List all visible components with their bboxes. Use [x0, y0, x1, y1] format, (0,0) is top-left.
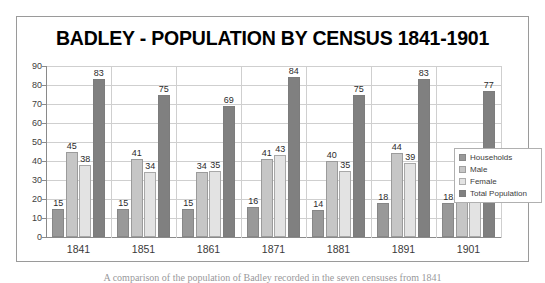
x-axis-tick-label: 1891: [392, 243, 415, 255]
bar-value-label: 41: [132, 148, 142, 158]
bar-value-label: 16: [248, 196, 258, 206]
bar-female-1851[interactable]: [144, 172, 156, 237]
chart-frame: BADLEY - POPULATION BY CENSUS 1841-1901 …: [16, 16, 529, 262]
bar-value-label: 15: [183, 198, 193, 208]
bar-total-population-1861[interactable]: [223, 106, 235, 237]
legend-label: Female: [470, 177, 497, 187]
bar-value-label: 77: [484, 80, 494, 90]
bar-value-label: 84: [289, 66, 299, 76]
figure-caption: A comparison of the population of Badley…: [0, 272, 545, 283]
y-axis-tick-label: 60: [32, 118, 42, 128]
y-axis-tick-label: 30: [32, 175, 42, 185]
legend-label: Households: [470, 153, 512, 163]
y-axis-tick-label: 40: [32, 156, 42, 166]
bar-households-1901[interactable]: [442, 203, 454, 237]
bar-male-1841[interactable]: [66, 152, 78, 238]
bar-value-label: 15: [118, 198, 128, 208]
bar-households-1841[interactable]: [52, 209, 64, 238]
legend-item-total-population[interactable]: Total Population: [459, 188, 538, 199]
bar-female-1891[interactable]: [404, 163, 416, 237]
legend-swatch-icon: [459, 190, 466, 197]
bar-group: 18443983: [371, 66, 436, 237]
bar-value-label: 14: [313, 199, 323, 209]
legend-item-male[interactable]: Male: [459, 164, 538, 175]
chart-legend: HouseholdsMaleFemaleTotal Population: [454, 148, 542, 203]
bar-households-1861[interactable]: [182, 209, 194, 238]
bar-group: 15413475: [111, 66, 176, 237]
bar-value-label: 40: [327, 150, 337, 160]
legend-label: Total Population: [470, 189, 527, 199]
bar-group: 16414384: [241, 66, 306, 237]
legend-item-households[interactable]: Households: [459, 152, 538, 163]
y-axis-tick-label: 70: [32, 99, 42, 109]
y-axis-tick-label: 90: [32, 61, 42, 71]
bar-households-1891[interactable]: [377, 203, 389, 237]
bar-households-1851[interactable]: [117, 209, 129, 238]
bar-value-label: 35: [340, 160, 350, 170]
bar-total-population-1841[interactable]: [93, 79, 105, 237]
bar-value-label: 15: [53, 198, 63, 208]
bar-value-label: 35: [210, 160, 220, 170]
bar-value-label: 43: [275, 144, 285, 154]
x-axis-tick-label: 1901: [457, 243, 480, 255]
bar-male-1851[interactable]: [131, 159, 143, 237]
y-axis-tick-label: 10: [32, 213, 42, 223]
x-axis-tick-label: 1841: [67, 243, 90, 255]
bar-value-label: 83: [419, 68, 429, 78]
bar-female-1871[interactable]: [274, 155, 286, 237]
bar-value-label: 75: [159, 84, 169, 94]
bar-group: 15343569: [176, 66, 241, 237]
bar-male-1891[interactable]: [391, 153, 403, 237]
bar-value-label: 34: [197, 161, 207, 171]
bar-value-label: 18: [443, 192, 453, 202]
bar-male-1861[interactable]: [196, 172, 208, 237]
bar-households-1871[interactable]: [247, 207, 259, 237]
legend-swatch-icon: [459, 154, 466, 161]
legend-label: Male: [470, 165, 487, 175]
bar-value-label: 44: [392, 142, 402, 152]
bar-total-population-1881[interactable]: [353, 95, 365, 238]
y-axis-labels: 0102030405060708090: [17, 66, 43, 238]
bar-value-label: 69: [224, 95, 234, 105]
bar-value-label: 38: [80, 154, 90, 164]
x-axis-tick-label: 1871: [262, 243, 285, 255]
bar-value-label: 45: [67, 141, 77, 151]
bar-total-population-1851[interactable]: [158, 95, 170, 238]
bar-female-1841[interactable]: [79, 165, 91, 237]
x-axis-tick-label: 1861: [197, 243, 220, 255]
legend-item-female[interactable]: Female: [459, 176, 538, 187]
bar-male-1881[interactable]: [326, 161, 338, 237]
bar-value-label: 34: [145, 161, 155, 171]
x-axis-tick-label: 1851: [132, 243, 155, 255]
legend-swatch-icon: [459, 166, 466, 173]
bar-total-population-1891[interactable]: [418, 79, 430, 237]
bar-female-1861[interactable]: [209, 171, 221, 238]
bar-value-label: 18: [378, 192, 388, 202]
bar-group: 15453883: [46, 66, 111, 237]
bar-female-1881[interactable]: [339, 171, 351, 238]
x-axis-tick-label: 1881: [327, 243, 350, 255]
y-axis-tick-label: 20: [32, 194, 42, 204]
legend-swatch-icon: [459, 178, 466, 185]
x-axis-labels: 1841185118611871188118911901: [46, 241, 501, 259]
plot-area: 1545388315413475153435691641438414403575…: [46, 66, 501, 238]
bar-value-label: 41: [262, 148, 272, 158]
chart-title: BADLEY - POPULATION BY CENSUS 1841-1901: [17, 27, 528, 50]
bar-value-label: 75: [354, 84, 364, 94]
bar-male-1871[interactable]: [261, 159, 273, 237]
y-axis-tick-label: 80: [32, 80, 42, 90]
bar-series-layer: 1545388315413475153435691641438414403575…: [46, 66, 501, 238]
bar-value-label: 83: [94, 68, 104, 78]
bar-group: 14403575: [306, 66, 371, 237]
bar-total-population-1871[interactable]: [288, 77, 300, 237]
bar-households-1881[interactable]: [312, 210, 324, 237]
bar-value-label: 39: [405, 152, 415, 162]
y-axis-tick-label: 50: [32, 137, 42, 147]
